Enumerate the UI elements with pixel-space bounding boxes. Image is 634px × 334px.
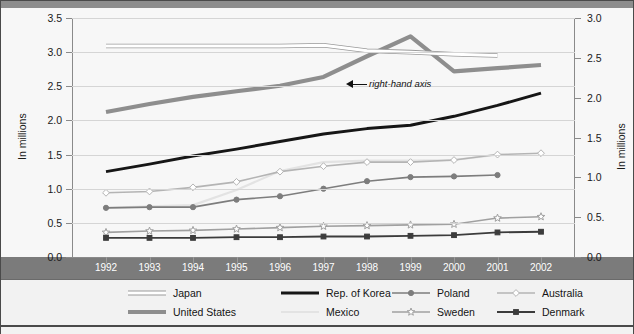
left-axis-tick-label: 1.0 [28,184,62,194]
legend-item-denmark[interactable]: Denmark [497,303,585,320]
legend-item-japan[interactable]: Japan [128,284,202,301]
annotation-arrow-icon [346,80,353,88]
legend-label: Japan [173,287,202,299]
data-point [278,235,283,240]
legend-label: Denmark [542,306,585,318]
data-point [321,234,326,239]
data-point [537,213,545,220]
data-point [234,235,239,240]
data-point [190,205,195,210]
plot-area [72,18,575,257]
chart-page: In millions In millions 0.00.51.01.52.02… [0,0,634,334]
data-point [189,226,197,233]
gridline [72,189,575,190]
left-axis-tick [66,120,72,121]
data-point [365,234,370,239]
x-axis-tick-label: 2002 [514,262,568,274]
top-accent-bar [1,1,633,8]
legend-swatch-icon [281,306,319,318]
left-axis-title: In millions [16,113,28,160]
gridline [72,52,575,53]
left-axis-tick-label: 0.5 [28,218,62,228]
data-point [451,157,458,164]
legend-item-sweden[interactable]: Sweden [392,303,475,320]
legend-item-rep-of-korea[interactable]: Rep. of Korea [281,284,391,301]
legend-swatch-icon [392,306,430,318]
data-point [451,174,456,179]
data-point [191,235,196,240]
right-axis-tick [575,58,581,59]
left-axis-tick-label: 2.0 [28,115,62,125]
left-axis-tick [66,189,72,190]
annotation-leader-line [353,84,367,85]
right-axis-tick-label: 0.0 [587,252,627,262]
series-sweden [102,213,545,236]
right-axis-tick [575,257,581,258]
legend-label: United States [173,306,236,318]
data-point [277,168,284,175]
left-axis-tick [66,86,72,87]
left-axis-tick-label: 1.5 [28,150,62,160]
data-point [495,172,500,177]
left-axis-tick-label: 0.0 [28,252,62,262]
series-japan [106,45,498,55]
legend-label: Sweden [437,306,475,318]
data-point [538,150,545,157]
gridline [72,155,575,156]
gridline [72,120,575,121]
data-point [277,194,282,199]
data-point [233,225,241,232]
left-axis-tick-label: 2.5 [28,81,62,91]
left-axis-tick [66,223,72,224]
data-point [102,228,110,235]
legend-swatch-icon [128,306,166,318]
data-point [494,214,502,221]
series-poland [103,172,500,210]
series-line [106,175,498,208]
left-axis-tick-label: 3.5 [28,13,62,23]
left-axis-tick [66,155,72,156]
data-point [147,205,152,210]
right-axis-tick [575,217,581,218]
legend-swatch-icon [497,287,535,299]
data-point [320,163,327,170]
data-point [233,178,240,185]
legend-label: Mexico [326,306,359,318]
series-line [106,45,498,55]
chart-legend: JapanRep. of KoreaPolandAustraliaUnited … [0,284,634,328]
legend-item-poland[interactable]: Poland [392,284,470,301]
data-point [276,224,284,231]
legend-item-united-states[interactable]: United States [128,303,236,320]
left-axis-tick [66,18,72,19]
right-axis-title: In millions [615,123,627,170]
data-point [539,229,544,234]
right-axis-tick-label: 3.0 [587,13,627,23]
legend-swatch-icon [281,287,319,299]
data-point [103,189,110,196]
left-axis-tick-label: 3.0 [28,47,62,57]
data-point [408,175,413,180]
legend-swatch-icon [497,306,535,318]
legend-item-australia[interactable]: Australia [497,284,583,301]
left-axis-tick [66,52,72,53]
gridline [72,18,575,19]
data-point [408,233,413,238]
data-point [103,205,108,210]
right-axis-tick [575,138,581,139]
series-lines [72,18,575,257]
right-axis-tick-label: 2.5 [587,53,627,63]
data-point [146,227,154,234]
legend-label: Poland [437,287,470,299]
data-point [495,230,500,235]
right-hand-axis-annotation: right-hand axis [369,78,431,89]
gridline [72,223,575,224]
gridline [72,86,575,87]
legend-item-mexico[interactable]: Mexico [281,303,359,320]
right-axis-tick-label: 2.0 [587,93,627,103]
series-line [106,93,541,172]
legend-label: Rep. of Korea [326,287,391,299]
right-axis-tick-label: 1.5 [587,133,627,143]
right-axis-tick [575,18,581,19]
legend-label: Australia [542,287,583,299]
legend-swatch-icon [392,287,430,299]
